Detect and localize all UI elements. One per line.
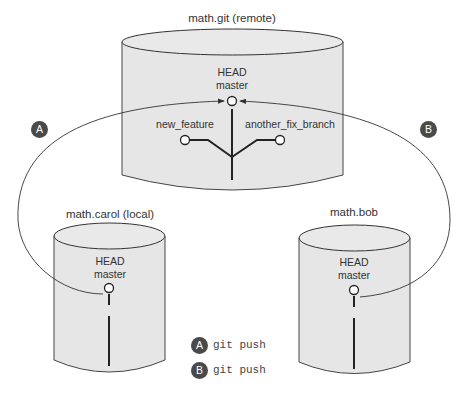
remote-repo-title: math.git (remote) [172,12,292,24]
legend-b-command: git push [213,364,266,376]
carol-master-commit [105,284,114,293]
carol-branch-label: master [80,268,140,281]
another-fix-commit [276,136,285,145]
new-feature-label: new_feature [150,118,220,131]
legend-b-badge: B [191,362,208,379]
bob-branch-label: master [324,269,384,282]
bob-repo-title: math.bob [314,206,394,218]
legend-a-badge: A [191,337,208,354]
bob-head-label: HEAD [324,256,384,269]
remote-head-label: HEAD [202,66,262,79]
carol-repo-title: math.carol (local) [50,208,170,220]
remote-master-commit [228,97,237,106]
arrow-b-badge: B [420,121,437,138]
arrow-a-badge: A [31,121,48,138]
bob-master-commit [350,286,359,295]
carol-repo-cylinder [54,223,165,372]
bob-repo-cylinder [299,225,410,374]
carol-head-label: HEAD [80,255,140,268]
legend-a-command: git push [213,339,266,351]
remote-branch-label: master [202,79,262,92]
another-fix-branch-label: another_fix_branch [240,118,340,131]
new-feature-commit [181,136,190,145]
